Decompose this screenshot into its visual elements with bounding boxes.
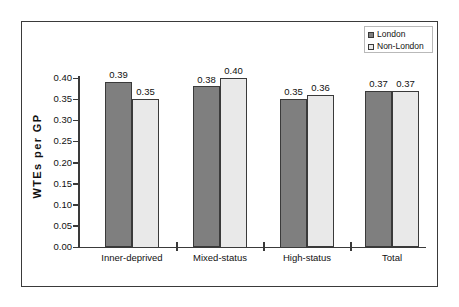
legend-item-london: London (368, 29, 429, 40)
bar-london-high-status (280, 99, 307, 248)
data-label-non-london-mixed-status: 0.40 (217, 66, 250, 76)
x-axis-category-label-mixed-status: Mixed-status (170, 252, 270, 263)
x-axis-separator-tick (176, 242, 178, 251)
bar-london-mixed-status (193, 86, 220, 247)
y-tick-mark (73, 99, 79, 101)
data-label-london-mixed-status: 0.38 (190, 75, 223, 85)
y-tick-mark (73, 204, 79, 206)
legend-label-london: London (377, 30, 405, 39)
bar-non-london-mixed-status (220, 78, 247, 248)
y-tick-label: 0.15 (42, 179, 72, 189)
y-tick-mark (73, 183, 79, 185)
legend-swatch-non-london-icon (368, 44, 374, 50)
x-axis-category-label-total: Total (342, 252, 442, 263)
chart-legend: London Non-London (364, 26, 433, 53)
legend-label-non-london: Non-London (377, 42, 424, 51)
y-tick-label: 0.10 (42, 200, 72, 210)
x-axis-separator-tick (263, 242, 265, 251)
y-tick-label: 0.00 (42, 242, 72, 252)
y-tick-mark (73, 225, 79, 227)
x-axis-separator-tick (350, 242, 352, 251)
data-label-non-london-inner-deprived: 0.35 (129, 87, 162, 97)
bar-non-london-high-status (307, 95, 334, 248)
bar-non-london-total (392, 91, 419, 248)
y-tick-label: 0.25 (42, 136, 72, 146)
y-tick-label: 0.20 (42, 158, 72, 168)
x-axis-category-label-inner-deprived: Inner-deprived (82, 252, 182, 263)
y-tick-label: 0.30 (42, 115, 72, 125)
bar-chart-figure: WTEs per GP 0.40 0.35 0.30 0.25 0.20 0.1… (0, 0, 459, 307)
bar-london-inner-deprived (105, 82, 132, 247)
y-tick-label: 0.40 (42, 73, 72, 83)
y-tick-mark (73, 78, 79, 80)
y-tick-mark (73, 162, 79, 164)
bar-non-london-inner-deprived (132, 99, 159, 248)
legend-item-non-london: Non-London (368, 41, 429, 52)
data-label-non-london-high-status: 0.36 (304, 83, 337, 93)
y-tick-mark (73, 141, 79, 143)
y-tick-label: 0.35 (42, 94, 72, 104)
y-tick-label: 0.05 (42, 221, 72, 231)
data-label-london-inner-deprived: 0.39 (102, 70, 135, 80)
data-label-non-london-total: 0.37 (389, 79, 422, 89)
y-tick-mark (73, 247, 79, 249)
bar-london-total (365, 91, 392, 248)
y-tick-mark (73, 120, 79, 122)
legend-swatch-london-icon (368, 32, 374, 38)
